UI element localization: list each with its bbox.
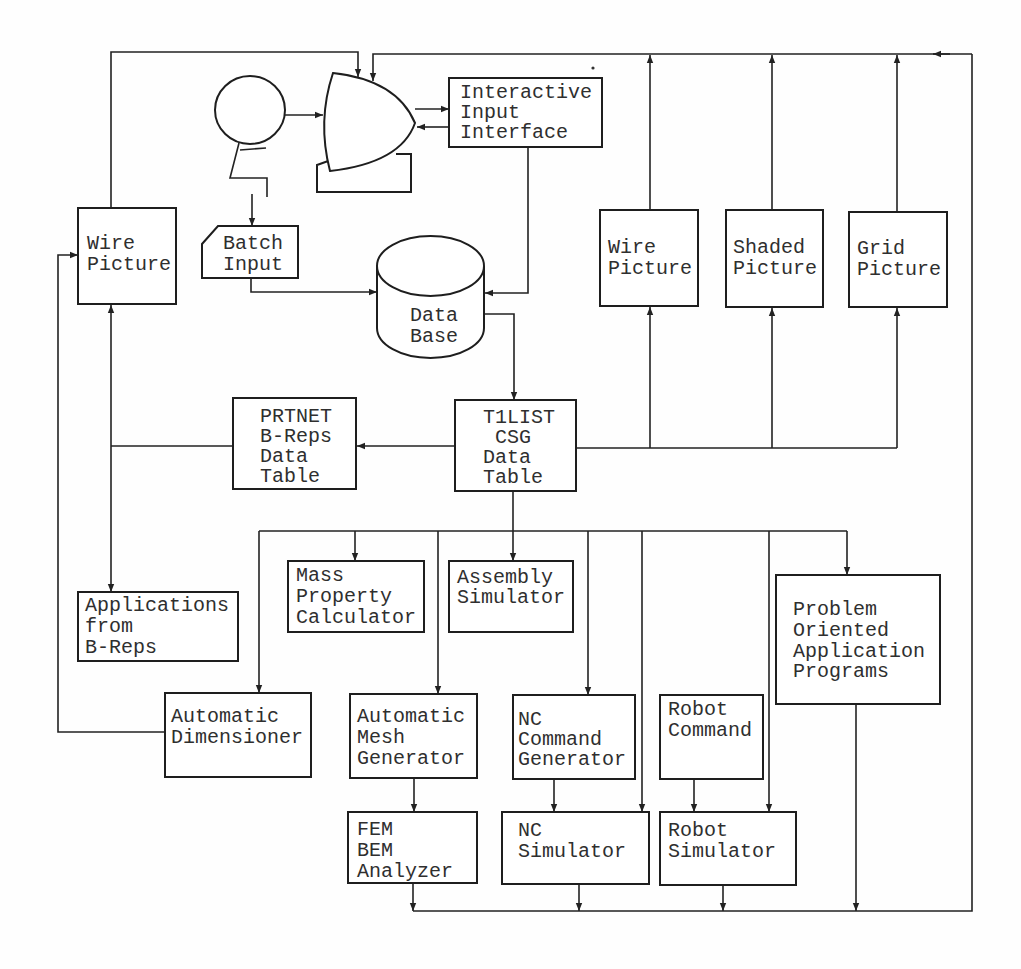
box-label-line: NC xyxy=(518,819,542,842)
box-automatic-mesh-generator: Automatic Mesh Generator xyxy=(350,694,477,778)
box-label-line: Mesh xyxy=(357,726,405,749)
box-label-line: Problem xyxy=(793,598,877,621)
box-wire-picture-left: Wire Picture xyxy=(78,208,176,304)
box-label-line: from xyxy=(85,615,133,638)
box-wire-picture-right: Wire Picture xyxy=(600,210,698,306)
box-nc-simulator: NC Simulator xyxy=(502,812,649,884)
box-robot-command: Robot Command xyxy=(660,695,763,779)
box-label-line: Generator xyxy=(357,747,465,770)
box-label-line: Interface xyxy=(460,121,568,144)
connector-top-return-to-display xyxy=(373,54,972,81)
box-t1list-csg-table: T1LIST CSG Data Table xyxy=(455,400,576,491)
connector-interactive-to-database xyxy=(485,147,528,293)
box-label-line: Automatic xyxy=(171,705,279,728)
system-diagram: Interactive Input Interface Batch Input … xyxy=(0,0,1021,969)
box-label-line: Picture xyxy=(608,257,692,280)
box-label-line: BEM xyxy=(357,839,393,862)
box-label-line: Dimensioner xyxy=(171,726,303,749)
box-label-line: Simulator xyxy=(668,840,776,863)
box-problem-oriented-programs: Problem Oriented Application Programs xyxy=(776,575,940,704)
user-operator-icon xyxy=(215,76,285,197)
box-nc-command-generator: NC Command Generator xyxy=(513,695,635,779)
box-label-line: Table xyxy=(260,465,320,488)
box-interactive-input-interface: Interactive Input Interface xyxy=(449,78,602,147)
box-label-line: Base xyxy=(410,325,458,348)
box-label-line: Mass xyxy=(296,564,344,587)
box-label-line: Programs xyxy=(793,660,889,683)
box-label-line: Picture xyxy=(87,253,171,276)
box-label-line: Robot xyxy=(668,819,728,842)
box-label-line: Input xyxy=(223,253,283,276)
connector-batch-to-database xyxy=(251,278,377,292)
box-label-line: Wire xyxy=(608,236,656,259)
box-label-line: Oriented xyxy=(793,619,889,642)
box-label-line: Data xyxy=(410,304,458,327)
box-fem-bem-analyzer: FEM BEM Analyzer xyxy=(348,812,477,883)
box-label-line: Applications xyxy=(85,594,229,617)
box-robot-simulator: Robot Simulator xyxy=(660,812,796,885)
box-assembly-simulator: Assembly Simulator xyxy=(449,561,573,632)
box-label-line: B-Reps xyxy=(85,636,157,659)
box-mass-property-calculator: Mass Property Calculator xyxy=(288,561,424,632)
box-label-line: Table xyxy=(483,466,543,489)
box-label-line: Automatic xyxy=(357,705,465,728)
connector-database-to-t1list xyxy=(484,314,514,400)
box-automatic-dimensioner: Automatic Dimensioner xyxy=(165,693,311,777)
box-shaded-picture: Shaded Picture xyxy=(726,210,823,307)
box-grid-picture: Grid Picture xyxy=(849,212,947,307)
batch-input-card: Batch Input xyxy=(202,226,298,278)
box-label-line: Picture xyxy=(733,257,817,280)
box-label-line: Analyzer xyxy=(357,860,453,883)
box-applications-from-breps: Applications from B-Reps xyxy=(78,592,238,661)
box-label-line: Robot xyxy=(668,698,728,721)
scan-speck xyxy=(591,66,594,69)
box-label-line: Picture xyxy=(857,258,941,281)
box-label-line: Batch xyxy=(223,232,283,255)
box-label-line: Calculator xyxy=(296,606,416,629)
box-label-line: Property xyxy=(296,585,392,608)
box-label-line: Simulator xyxy=(518,840,626,863)
box-prtnet-breps-table: PRTNET B-Reps Data Table xyxy=(233,398,356,489)
box-label-line: FEM xyxy=(357,818,393,841)
box-label-line: Simulator xyxy=(457,586,565,609)
database-cylinder: Data Base xyxy=(377,236,484,358)
box-label-line: Wire xyxy=(87,232,135,255)
box-label-line: Command xyxy=(668,719,752,742)
box-label-line: Generator xyxy=(518,748,626,771)
box-label-line: Grid xyxy=(857,237,905,260)
crt-display-terminal-icon xyxy=(317,73,415,192)
box-label-line: Shaded xyxy=(733,236,805,259)
